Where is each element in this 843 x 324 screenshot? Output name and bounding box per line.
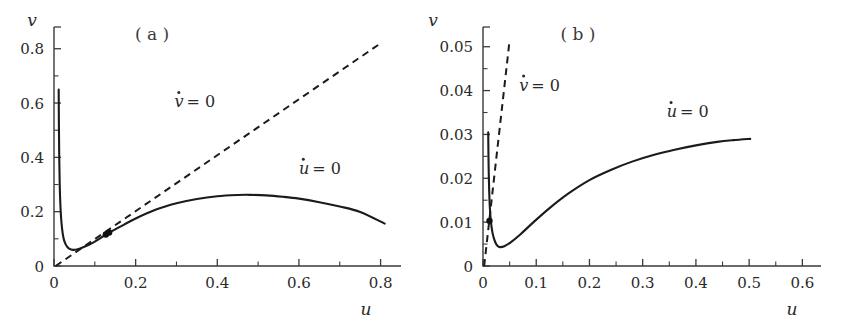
y-tick-label: 0.03 <box>440 126 473 144</box>
x-tick-label: 0.2 <box>578 274 602 292</box>
svg-text:u= 0: u= 0 <box>667 102 709 121</box>
y-tick-label: 0.6 <box>20 95 44 113</box>
x-tick-label: 0.4 <box>205 274 229 292</box>
svg-text:v= 0: v= 0 <box>174 92 215 111</box>
panel-label: ( a ) <box>135 24 169 44</box>
tick-marks <box>483 27 802 266</box>
fixed-point-marker <box>106 229 112 235</box>
tick-marks <box>54 27 381 266</box>
x-axis-label: u <box>361 299 372 319</box>
axis-spines <box>54 27 401 266</box>
y-axis-label: v <box>27 10 37 30</box>
axes <box>483 27 821 266</box>
axis-spines <box>483 27 821 266</box>
svg-text:u= 0: u= 0 <box>299 159 341 178</box>
y-axis-label: v <box>428 10 438 30</box>
y-tick-label: 0.05 <box>440 38 473 56</box>
y-tick-label: 0.4 <box>20 149 44 167</box>
fixed-point-marker <box>486 218 492 224</box>
x-tick-label: 0 <box>478 274 488 292</box>
nullcline-u-dot-zero <box>488 132 750 247</box>
fixed-points <box>103 229 113 237</box>
svg-text:v= 0: v= 0 <box>519 76 560 95</box>
nullclines <box>484 40 750 266</box>
phase-plane-plot-b: 00.010.020.030.040.0500.10.20.30.40.50.6… <box>421 0 843 324</box>
annotation-u-dot-zero: u= 0 <box>667 101 709 121</box>
axes <box>54 27 401 266</box>
x-tick-label: 0.8 <box>369 274 393 292</box>
panel-label: ( b ) <box>561 24 596 44</box>
panel-b: 00.010.020.030.040.0500.10.20.30.40.50.6… <box>421 0 843 324</box>
x-tick-label: 0.2 <box>124 274 148 292</box>
x-tick-label: 0.3 <box>631 274 655 292</box>
curve-annotations: v= 0u= 0 <box>174 91 340 178</box>
annotation-v-dot-zero: v= 0 <box>519 75 560 95</box>
y-tick-label: 0.04 <box>440 82 473 100</box>
phase-plane-plot-a: 00.20.40.60.800.20.40.60.8vu( a )v= 0u= … <box>0 0 421 324</box>
x-tick-label: 0.6 <box>287 274 311 292</box>
y-tick-label: 0.2 <box>20 203 44 221</box>
x-tick-label: 0.4 <box>684 274 708 292</box>
x-axis-label: u <box>787 299 798 319</box>
x-tick-label: 0.6 <box>790 274 814 292</box>
panel-a: 00.20.40.60.800.20.40.60.8vu( a )v= 0u= … <box>0 0 421 324</box>
figure-root: 00.20.40.60.800.20.40.60.8vu( a )v= 0u= … <box>0 0 843 324</box>
y-tick-label: 0 <box>463 258 473 276</box>
curve-annotations: v= 0u= 0 <box>519 75 708 121</box>
y-tick-label: 0.8 <box>20 40 44 58</box>
annotation-u-dot-zero: u= 0 <box>299 158 341 178</box>
annotation-v-dot-zero: v= 0 <box>174 91 215 111</box>
y-tick-label: 0.01 <box>440 214 473 232</box>
y-tick-label: 0 <box>34 258 44 276</box>
x-tick-label: 0 <box>49 274 59 292</box>
x-tick-label: 0.5 <box>737 274 761 292</box>
fixed-points <box>486 218 492 224</box>
y-tick-label: 0.02 <box>440 170 473 188</box>
x-tick-label: 0.1 <box>524 274 548 292</box>
